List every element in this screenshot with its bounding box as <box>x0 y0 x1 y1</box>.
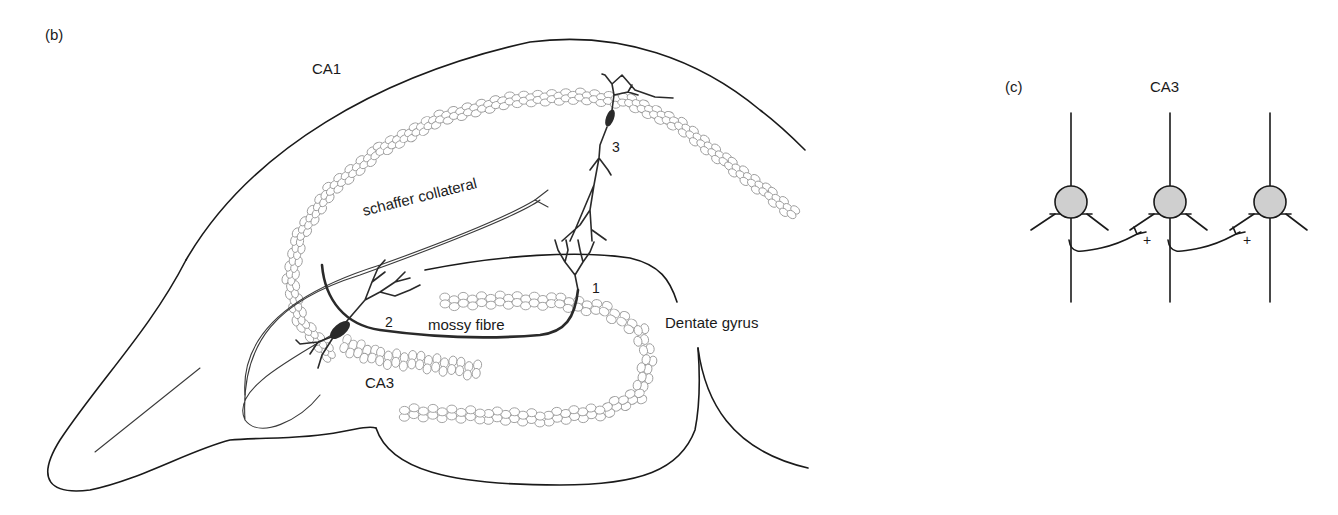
cell-body <box>466 406 476 414</box>
label-ca1: CA1 <box>312 60 341 77</box>
label-mossy-fibre: mossy fibre <box>428 316 505 333</box>
label-dentate-gyrus: Dentate gyrus <box>665 314 758 331</box>
label-neuron-1: 1 <box>592 280 600 296</box>
synapse-sign-2: + <box>1243 232 1251 248</box>
cell-body <box>477 298 487 306</box>
cell-body <box>447 364 456 375</box>
recurrent-collateral <box>1069 232 1141 251</box>
cell-body <box>428 404 438 412</box>
ca3-neuron-soma <box>1254 186 1286 218</box>
ca3-recurrent-network <box>1031 113 1307 302</box>
cell-body <box>418 407 428 415</box>
panel-c-title: CA3 <box>1150 78 1179 95</box>
cell-body <box>449 302 459 310</box>
basal-dendrite-right <box>1186 214 1207 230</box>
synapse-sign-1: + <box>1143 232 1151 248</box>
cell-body <box>407 359 416 370</box>
cell-body <box>437 408 447 416</box>
basal-dendrite-left <box>1230 214 1254 230</box>
cell-body <box>440 300 450 308</box>
cell-body <box>475 409 485 417</box>
basal-dendrite-left <box>1130 214 1154 230</box>
cell-body <box>456 408 466 416</box>
basal-dendrite-right <box>1087 214 1108 230</box>
panel-c-label: (c) <box>1005 78 1023 95</box>
hippocampus-left-lobe-outline <box>48 260 376 491</box>
label-neuron-3: 3 <box>612 139 620 155</box>
cell-body <box>458 299 468 307</box>
basal-dendrite-right <box>1286 214 1307 230</box>
panel-b: (b) <box>45 26 808 491</box>
hippocampus-figure: (b) <box>0 0 1338 515</box>
cell-body <box>383 359 392 370</box>
dentate-right-cusp-outline <box>698 348 808 468</box>
neuron-1-granule-cell <box>555 240 594 290</box>
cell-body <box>455 365 464 376</box>
basal-dendrite-left <box>1031 214 1055 230</box>
cell-body <box>391 357 400 368</box>
inner-fissure-line <box>95 368 200 452</box>
label-neuron-2: 2 <box>385 314 393 330</box>
cell-body <box>447 405 457 413</box>
cell-body <box>463 369 472 380</box>
panel-c: (c) CA3 + + <box>1005 78 1307 302</box>
cell-body <box>399 361 408 372</box>
ca3-neuron-soma <box>1154 186 1186 218</box>
recurrent-collateral <box>1168 232 1240 251</box>
cell-body <box>409 404 419 412</box>
panel-b-label: (b) <box>45 26 63 43</box>
ca3-cell-layer-lower <box>339 334 483 381</box>
cell-body <box>471 368 480 379</box>
cell-body <box>399 406 409 414</box>
label-ca3: CA3 <box>365 374 394 391</box>
ca3-neuron-soma <box>1055 186 1087 218</box>
label-schaffer-collateral: schaffer collateral <box>361 174 479 219</box>
